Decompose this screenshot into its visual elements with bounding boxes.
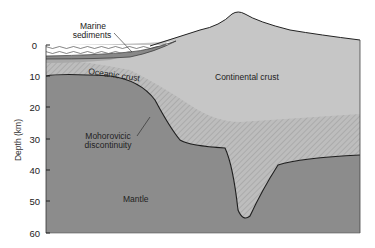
y-tick-10: 10 [29,71,40,82]
label-marine-sediments-2: sediments [73,30,112,40]
y-tick-0: 0 [32,40,37,51]
y-tick-20: 20 [29,102,40,113]
y-tick-60: 60 [29,228,40,239]
label-continental-crust: Continental crust [215,72,279,82]
y-tick-30: 30 [29,134,40,145]
y-tick-50: 50 [29,196,40,207]
crust-diagram: 0 10 20 30 40 50 60 Depth (km) Marine se… [0,0,375,248]
label-moho-2: discontinuity [85,140,133,150]
y-axis-title: Depth (km) [13,119,23,161]
label-mantle: Mantle [123,194,149,204]
y-tick-40: 40 [29,165,40,176]
